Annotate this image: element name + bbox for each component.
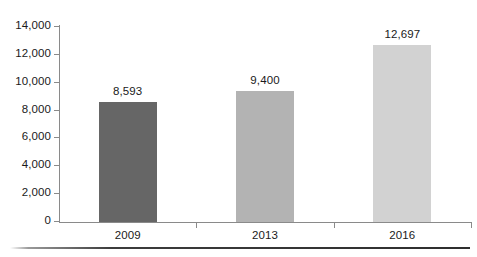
bar-2009[interactable] [99, 102, 157, 222]
y-tick-label: 14,000 [0, 19, 51, 31]
bar-value-label-2009: 8,593 [88, 85, 168, 97]
y-tick-label: 0 [0, 214, 51, 226]
bar-value-label-2016: 12,697 [362, 28, 442, 40]
plot-area [59, 27, 471, 222]
x-axis-label-2016: 2016 [362, 229, 442, 241]
bottom-rule [10, 247, 470, 249]
x-axis-line [59, 222, 471, 223]
y-tick-label: 6,000 [0, 130, 51, 142]
y-tick-label: 10,000 [0, 75, 51, 87]
y-tick-label: 8,000 [0, 103, 51, 115]
y-tick-label: 12,000 [0, 47, 51, 59]
x-axis-label-2013: 2013 [225, 229, 305, 241]
x-axis-label-2009: 2009 [88, 229, 168, 241]
x-axis-separator [196, 222, 197, 228]
y-tick-label: 4,000 [0, 158, 51, 170]
bar-2013[interactable] [236, 91, 294, 222]
x-axis-separator [334, 222, 335, 228]
x-axis-separator [471, 222, 472, 228]
y-tick-label: 2,000 [0, 186, 51, 198]
bar-value-label-2013: 9,400 [225, 74, 305, 86]
bar-chart: 02,0004,0006,0008,00010,00012,00014,000 … [0, 0, 477, 257]
bar-2016[interactable] [373, 45, 431, 222]
